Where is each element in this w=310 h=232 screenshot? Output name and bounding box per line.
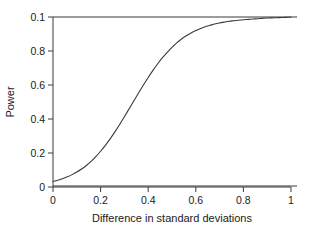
chart-canvas: 0 0.2 0.4 0.6 0.8 0.1 0 0.2 0.4 0.6 0.8 … bbox=[0, 0, 310, 232]
y-tick-label-0: 0 bbox=[39, 181, 45, 193]
x-tick-label-3: 0.6 bbox=[188, 194, 203, 206]
x-axis-title: Difference in standard deviations bbox=[92, 212, 253, 224]
x-tick-label-2: 0.4 bbox=[141, 194, 156, 206]
x-tick-label-5: 1 bbox=[288, 194, 294, 206]
y-tick-label-4: 0.8 bbox=[30, 45, 45, 57]
y-tick-label-3: 0.6 bbox=[30, 79, 45, 91]
x-tick-label-0: 0 bbox=[50, 194, 56, 206]
x-tick-label-1: 0.2 bbox=[93, 194, 108, 206]
power-curve-figure: 0 0.2 0.4 0.6 0.8 0.1 0 0.2 0.4 0.6 0.8 … bbox=[0, 0, 310, 232]
y-tick-label-1: 0.2 bbox=[30, 147, 45, 159]
y-tick-label-5: 0.1 bbox=[30, 11, 45, 23]
y-tick-label-2: 0.4 bbox=[30, 113, 45, 125]
x-tick-label-4: 0.8 bbox=[236, 194, 251, 206]
y-axis-title: Power bbox=[4, 86, 16, 118]
